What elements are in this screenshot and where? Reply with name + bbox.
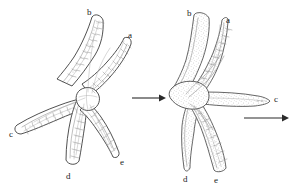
transition-arrow <box>132 95 166 102</box>
label-right-arm-a: a <box>226 16 230 25</box>
starfish-illustration <box>0 0 291 194</box>
starfish-figure: a b c d e a b c d e <box>0 0 291 194</box>
label-left-arm-a: a <box>128 31 132 40</box>
label-right-arm-e: e <box>214 176 218 185</box>
right-arm-c <box>203 92 270 106</box>
label-right-arm-d: d <box>183 175 188 184</box>
label-left-arm-c: c <box>9 130 13 139</box>
right-starfish-group <box>169 13 270 172</box>
left-starfish-group <box>15 15 131 164</box>
label-left-arm-b: b <box>87 8 92 17</box>
direction-of-movement-arrow <box>244 115 289 122</box>
label-right-arm-c: c <box>274 95 278 104</box>
right-central-disc <box>169 81 209 109</box>
label-left-arm-e: e <box>120 158 124 167</box>
label-right-arm-b: b <box>187 9 192 18</box>
label-left-arm-d: d <box>66 172 71 181</box>
